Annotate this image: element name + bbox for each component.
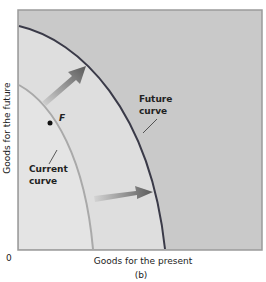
y-axis-label: Goods for the future (2, 78, 12, 178)
figure-caption: (b) (8, 270, 266, 280)
current-curve-label-line1: Current (29, 163, 68, 175)
current-curve-label: Current curve (29, 163, 68, 187)
x-axis-label: Goods for the present (10, 256, 266, 266)
future-curve-label-line2: curve (139, 105, 172, 117)
future-curve-label: Future curve (139, 93, 172, 117)
ppf-diagram (0, 0, 266, 282)
current-curve-label-line2: curve (29, 175, 68, 187)
point-f-marker (48, 121, 53, 126)
point-f-label: F (59, 113, 65, 123)
future-curve-label-line1: Future (139, 93, 172, 105)
